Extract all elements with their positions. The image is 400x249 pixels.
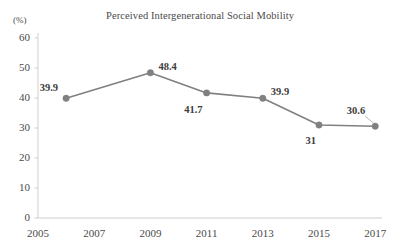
data-point-label: 39.9 <box>0 82 58 93</box>
chart-container: Perceived Intergenerational Social Mobil… <box>0 0 400 249</box>
data-point-marker <box>147 70 153 76</box>
data-point-label: 30.6 <box>0 105 365 116</box>
data-point-marker <box>372 123 378 129</box>
y-axis-tick-marks <box>35 38 39 218</box>
data-point-label: 39.9 <box>271 86 289 97</box>
series-line <box>66 73 375 126</box>
data-point-label: 48.4 <box>158 61 176 72</box>
label-leader-line <box>365 116 374 123</box>
data-point-label: 31 <box>0 135 316 146</box>
data-point-marker <box>316 122 322 128</box>
label-leader-lines <box>365 116 374 123</box>
series-markers <box>63 70 379 130</box>
data-point-marker <box>63 95 69 101</box>
plot-area <box>0 0 400 249</box>
data-point-marker <box>203 90 209 96</box>
data-point-marker <box>260 95 266 101</box>
